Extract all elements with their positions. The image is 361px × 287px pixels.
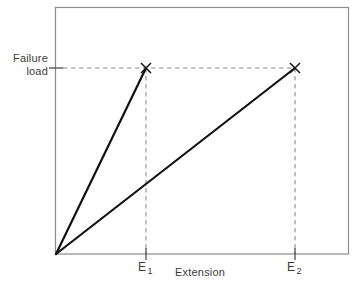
plot-frame bbox=[56, 8, 349, 255]
y-axis-failure-load-label: Failure load bbox=[0, 52, 48, 78]
x-tick-label-e2-subscript: 2 bbox=[295, 266, 302, 276]
load-extension-chart bbox=[0, 0, 361, 287]
x-tick-label-e1: E1 bbox=[138, 260, 153, 276]
x-tick-label-e1-base: E bbox=[138, 260, 146, 274]
load-line-stiff bbox=[56, 68, 146, 254]
x-tick-label-e2: E2 bbox=[287, 260, 302, 276]
x-tick-label-e2-base: E bbox=[287, 260, 295, 274]
load-line-compliant bbox=[56, 68, 295, 254]
x-axis-title: Extension bbox=[175, 266, 225, 279]
x-tick-label-e1-subscript: 1 bbox=[146, 266, 153, 276]
failure-load-label-line1: Failure bbox=[13, 52, 48, 64]
figure-canvas: Failure load E1 E2 Extension bbox=[0, 0, 361, 287]
failure-load-label-line2: load bbox=[0, 65, 48, 78]
